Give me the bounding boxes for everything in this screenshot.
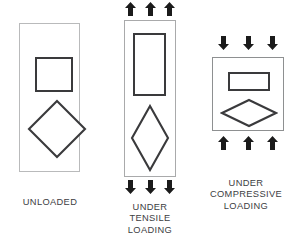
arrow-group-tensile-top (125, 2, 175, 20)
arrow-up-icon (267, 136, 278, 154)
caption-tensile: UNDER TENSILE LOADING (110, 202, 190, 236)
loading-deformation-figure: UNLOADED (0, 0, 299, 242)
inner-diamond-tensile (130, 104, 170, 176)
arrow-group-tensile-bottom (125, 180, 175, 198)
arrow-up-icon (243, 136, 254, 154)
arrow-down-icon (267, 36, 278, 54)
inner-diamond-compressive (220, 98, 278, 132)
arrow-up-icon (145, 2, 156, 20)
inner-diamond-unloaded (27, 99, 87, 163)
caption-unloaded: UNLOADED (6, 197, 94, 208)
arrow-group-compressive-bottom (218, 136, 278, 154)
arrow-down-icon (243, 36, 254, 54)
arrow-down-icon (164, 180, 175, 198)
arrow-down-icon (218, 36, 229, 54)
arrow-up-icon (164, 2, 175, 20)
arrow-group-compressive-top (218, 36, 278, 54)
arrow-up-icon (125, 2, 136, 20)
caption-compressive: UNDER COMPRESSIVE LOADING (194, 178, 298, 212)
arrow-down-icon (145, 180, 156, 198)
arrow-up-icon (218, 136, 229, 154)
arrow-down-icon (125, 180, 136, 198)
inner-rectangle-tensile (133, 33, 166, 96)
inner-rectangle-compressive (228, 72, 270, 91)
inner-square-unloaded (35, 57, 73, 92)
